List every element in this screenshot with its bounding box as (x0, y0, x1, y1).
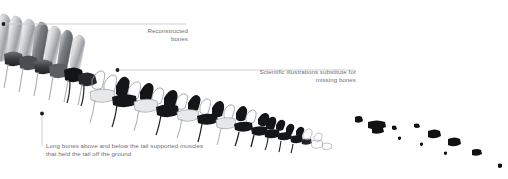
figure-canvas: Reconstructed bones Scientific illustrat… (0, 0, 508, 179)
scattered-bone-fragments (355, 116, 502, 168)
proximal-vertebrae-group (0, 13, 97, 106)
label-reconstructed-bones: Reconstructed bones (96, 27, 188, 42)
distal-vertebrae-group (264, 117, 332, 153)
label-long-bones-caption: Long bones above and below the tail supp… (46, 142, 246, 157)
label-scientific-illustrations: Scientific illustrations substitute for … (180, 68, 356, 83)
